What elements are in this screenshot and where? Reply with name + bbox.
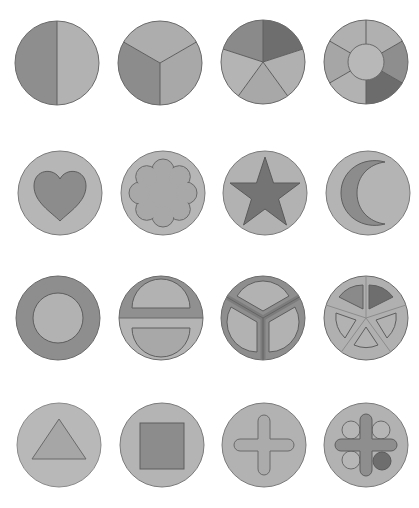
cross-icon bbox=[221, 402, 307, 488]
five-sectors-inset-icon bbox=[323, 275, 409, 361]
disc-crescent bbox=[325, 150, 411, 236]
disc-ring-circle bbox=[15, 275, 101, 361]
disc-thirds bbox=[117, 20, 203, 106]
two-semicircles-icon bbox=[118, 275, 204, 361]
disc-flower bbox=[120, 150, 206, 236]
fifths-icon bbox=[220, 19, 306, 105]
disc-cross bbox=[221, 402, 307, 488]
disc-sixths-ring bbox=[323, 19, 409, 105]
disc-five-sectors-inset bbox=[323, 275, 409, 361]
star-icon bbox=[222, 150, 308, 236]
sixths-ring-icon bbox=[323, 19, 409, 105]
disc-two-semicircles bbox=[118, 275, 204, 361]
disc-square bbox=[119, 402, 205, 488]
crescent-icon bbox=[325, 150, 411, 236]
disc-star bbox=[222, 150, 308, 236]
disc-halves bbox=[14, 20, 100, 106]
halves-icon bbox=[14, 20, 100, 106]
disc-fifths bbox=[220, 19, 306, 105]
disc-three-sectors-inset bbox=[220, 275, 306, 361]
ring-circle-icon bbox=[15, 275, 101, 361]
disc-triangle bbox=[16, 402, 102, 488]
triangle-icon bbox=[16, 402, 102, 488]
flower-icon bbox=[120, 150, 206, 236]
disc-heart bbox=[17, 150, 103, 236]
thirds-icon bbox=[117, 20, 203, 106]
heart-icon bbox=[17, 150, 103, 236]
square-icon bbox=[119, 402, 205, 488]
three-sectors-inset-icon bbox=[220, 275, 306, 361]
disc-cross-circles bbox=[323, 402, 409, 488]
cross-circles-icon bbox=[323, 402, 409, 488]
